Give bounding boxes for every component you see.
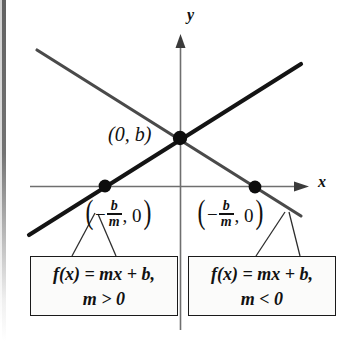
right-fraction-denominator: m: [219, 215, 234, 229]
linear-function-figure: y x (0, b) ( − b m , 0 ) ( − b m , 0 ) f…: [0, 0, 352, 341]
line-negative-slope: [37, 50, 301, 216]
left-close-paren: ): [143, 200, 151, 226]
y-axis-label: y: [187, 6, 194, 24]
x-axis-label: x: [318, 173, 326, 191]
formula-negative-line1: f(x) = mx + b,: [211, 264, 313, 285]
right-comma-zero: , 0: [235, 206, 254, 225]
x-intercept-right-label: ( − b m , 0 ): [196, 198, 265, 228]
left-fraction-numerator: b: [109, 199, 120, 213]
y-intercept-label: (0, b): [108, 124, 151, 144]
formula-positive-line1: f(x) = mx + b,: [53, 264, 155, 285]
right-close-paren: ): [255, 200, 263, 226]
left-fraction-denominator: m: [107, 215, 122, 229]
point-x-intercept-left: [99, 180, 112, 193]
x-intercept-left-label: ( − b m , 0 ): [84, 198, 153, 228]
right-fraction-numerator: b: [221, 199, 232, 213]
formula-positive-line2: m > 0: [83, 289, 125, 310]
point-y-intercept: [173, 131, 187, 145]
right-minus-sign: −: [207, 205, 218, 224]
left-minus-sign: −: [95, 205, 106, 224]
left-fraction: b m: [107, 199, 122, 229]
formula-box-positive-slope: f(x) = mx + b, m > 0: [30, 256, 178, 316]
formula-box-negative-slope: f(x) = mx + b, m < 0: [188, 256, 336, 316]
formula-negative-line2: m < 0: [241, 289, 283, 310]
left-comma-zero: , 0: [123, 206, 142, 225]
left-open-paren: (: [86, 200, 94, 226]
right-fraction: b m: [219, 199, 234, 229]
x-axis: [30, 182, 309, 192]
right-open-paren: (: [198, 200, 206, 226]
point-x-intercept-right: [249, 181, 262, 194]
